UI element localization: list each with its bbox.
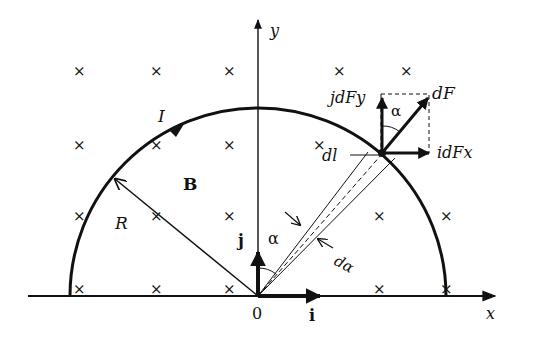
alpha-top-label: α xyxy=(391,102,401,120)
field-into-page-marker: × xyxy=(223,136,236,154)
d-alpha-arrow-lower xyxy=(318,239,333,248)
field-label: B xyxy=(183,174,197,194)
unit-j-label: j xyxy=(236,231,244,250)
unit-i-label: i xyxy=(309,306,315,325)
radius-line xyxy=(115,179,258,296)
d-alpha-label: dα xyxy=(331,252,357,277)
alpha-arc xyxy=(258,268,276,274)
field-into-page-marker: × xyxy=(223,207,236,225)
dF-label: dF xyxy=(432,83,456,103)
field-into-page-marker: × xyxy=(73,280,86,298)
field-into-page-marker: × xyxy=(400,62,413,80)
alpha-label: α xyxy=(268,229,279,248)
current-label: I xyxy=(157,106,165,126)
idFx-label: idFx xyxy=(437,143,472,162)
jdFy-label: jdFy xyxy=(327,88,366,107)
magnetic-field-markers: ××××××××××××××××××× xyxy=(73,62,453,298)
d-alpha-arrow-upper xyxy=(285,212,300,225)
force-diagram xyxy=(378,94,429,157)
field-into-page-marker: × xyxy=(373,207,386,225)
field-into-page-marker: × xyxy=(373,280,386,298)
origin-label: 0 xyxy=(252,304,262,323)
dl-label: dl xyxy=(322,146,337,165)
field-into-page-marker: × xyxy=(150,280,163,298)
diagram-canvas: ××××××××××××××××××× y x 0 i j I B R α dα… xyxy=(0,0,533,339)
field-into-page-marker: × xyxy=(333,62,346,80)
field-into-page-marker: × xyxy=(73,136,86,154)
field-into-page-marker: × xyxy=(223,62,236,80)
x-axis-label: x xyxy=(486,304,495,323)
y-axis-label: y xyxy=(269,21,280,40)
radius-label: R xyxy=(114,213,128,233)
field-into-page-marker: × xyxy=(223,280,236,298)
field-into-page-marker: × xyxy=(73,62,86,80)
field-into-page-marker: × xyxy=(440,207,453,225)
field-into-page-marker: × xyxy=(150,62,163,80)
